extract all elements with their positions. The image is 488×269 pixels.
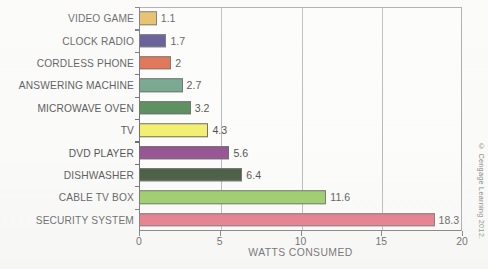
category-label: CLOCK RADIO — [62, 35, 134, 46]
bar-value-label: 11.6 — [326, 191, 350, 203]
category-label: MICROWAVE OVEN — [37, 102, 134, 113]
y-axis-tick — [135, 209, 140, 210]
x-axis-tick-label: 15 — [375, 236, 387, 247]
y-axis-tick — [135, 164, 140, 165]
bar-value-label: 5.6 — [229, 147, 248, 159]
bar-value-label: 3.2 — [191, 102, 210, 114]
bar-row: MICROWAVE OVEN3.2 — [0, 97, 488, 119]
bar-value-label: 1.7 — [166, 35, 185, 47]
category-label: DVD PLAYER — [69, 147, 134, 158]
y-axis-tick — [135, 186, 140, 187]
chart-page: VIDEO GAME1.1CLOCK RADIO1.7CORDLESS PHON… — [0, 0, 488, 269]
bar-row: ANSWERING MACHINE2.7 — [0, 74, 488, 96]
copyright-notice: © Cengage Learning 2012. — [477, 142, 486, 239]
bar-row: SECURITY SYSTEM18.3 — [0, 209, 488, 231]
bar[interactable] — [139, 56, 171, 70]
x-axis-tick-label: 0 — [136, 236, 142, 247]
bar[interactable] — [139, 11, 157, 25]
x-axis-tick-label: 5 — [217, 236, 223, 247]
bar-value-label: 6.4 — [242, 169, 261, 181]
bar[interactable] — [139, 34, 166, 48]
y-axis-tick — [135, 29, 140, 30]
x-axis-title: WATTS CONSUMED — [139, 247, 462, 258]
bar[interactable] — [139, 101, 191, 115]
bar-row: CORDLESS PHONE2 — [0, 52, 488, 74]
x-axis-tick-label: 20 — [456, 236, 468, 247]
category-label: SECURITY SYSTEM — [36, 214, 134, 225]
bar-row: CABLE TV BOX11.6 — [0, 186, 488, 208]
bar-value-label: 18.3 — [435, 214, 460, 226]
bar[interactable] — [139, 213, 435, 227]
bar-row: DVD PLAYER5.6 — [0, 141, 488, 163]
category-label: ANSWERING MACHINE — [19, 80, 134, 91]
y-axis-tick — [135, 74, 140, 75]
bar[interactable] — [139, 146, 229, 160]
y-axis-tick — [135, 52, 140, 53]
y-axis-tick — [135, 119, 140, 120]
category-label: TV — [121, 125, 134, 136]
bar-row: DISHWASHER6.4 — [0, 164, 488, 186]
category-label: CORDLESS PHONE — [37, 57, 134, 68]
bar[interactable] — [139, 168, 242, 182]
category-label: VIDEO GAME — [68, 13, 134, 24]
y-axis-tick — [135, 7, 140, 8]
bar-value-label: 1.1 — [157, 12, 176, 24]
y-axis-tick — [135, 141, 140, 142]
bar-value-label: 2 — [171, 57, 181, 69]
bar-row: TV4.3 — [0, 119, 488, 141]
bar-row: CLOCK RADIO1.7 — [0, 29, 488, 51]
category-label: DISHWASHER — [64, 169, 134, 180]
bar-value-label: 4.3 — [208, 124, 227, 136]
x-axis-tick-label: 10 — [295, 236, 307, 247]
bar[interactable] — [139, 79, 183, 93]
bar-row: VIDEO GAME1.1 — [0, 7, 488, 29]
bar-value-label: 2.7 — [183, 79, 202, 91]
bar[interactable] — [139, 191, 326, 205]
category-label: CABLE TV BOX — [59, 192, 134, 203]
bar[interactable] — [139, 123, 208, 137]
y-axis-tick — [135, 97, 140, 98]
